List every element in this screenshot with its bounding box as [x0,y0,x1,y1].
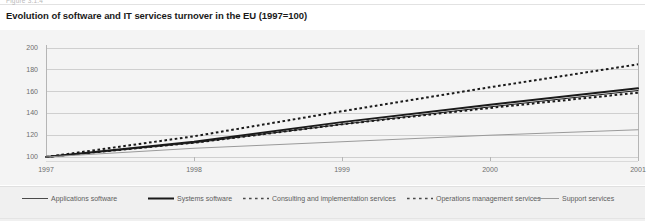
legend-item[interactable]: Operations management services [407,192,541,204]
legend-line-swatch [533,194,559,203]
y-axis-tick-label: 100 [8,153,38,161]
y-axis-tick-label: 140 [8,109,38,117]
chart-legend: Applications softwareSystems softwareCon… [0,186,645,221]
legend-item-label: Support services [562,194,614,203]
x-axis-tick-label: 1998 [169,166,219,174]
legend-item-label: Consulting and implementation services [272,194,396,203]
y-axis-tick-label: 200 [8,44,38,52]
legend-line-swatch [243,194,269,203]
x-axis-tick-label: 1997 [21,166,71,174]
legend-item[interactable]: Applications software [22,192,117,204]
legend-item-label: Applications software [51,194,117,203]
y-axis-tick-label: 160 [8,88,38,96]
legend-item[interactable]: Support services [533,192,614,204]
legend-line-swatch [22,194,48,203]
series-line [46,64,638,157]
legend-line-swatch [148,194,174,203]
bottom-divider [0,218,645,219]
legend-item[interactable]: Consulting and implementation services [243,192,396,204]
legend-line-swatch [407,194,433,203]
x-axis-tick-label: 2000 [465,166,515,174]
series-line [46,88,638,157]
legend-item-label: Operations management services [436,194,541,203]
legend-item[interactable]: Systems software [148,192,232,204]
series-line [46,130,638,157]
legend-item-label: Systems software [177,194,232,203]
y-axis-tick-label: 180 [8,66,38,74]
x-axis-tick-label: 1999 [317,166,367,174]
x-axis-tick-label: 2001 [613,166,651,174]
series-lines-group [46,64,638,157]
y-axis-tick-label: 120 [8,131,38,139]
